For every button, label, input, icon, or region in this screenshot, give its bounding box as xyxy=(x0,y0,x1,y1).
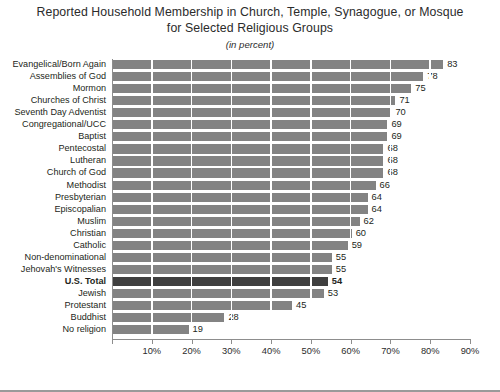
category-label: Presbyterian xyxy=(55,192,106,203)
bar-value-label: 78 xyxy=(427,71,437,82)
x-axis-tick-label: 30% xyxy=(222,346,241,356)
bar-row: Methodist66 xyxy=(0,180,500,191)
bar xyxy=(113,120,387,129)
bar-row: Jewish53 xyxy=(0,288,500,299)
bar-value-label: 45 xyxy=(296,300,306,311)
bar-value-label: 70 xyxy=(395,107,405,118)
x-axis-tick xyxy=(470,339,471,344)
x-axis-tick xyxy=(192,339,193,344)
bar-row: Non-denominational55 xyxy=(0,252,500,263)
category-label: Evangelical/Born Again xyxy=(12,59,106,70)
x-axis-tick xyxy=(351,339,352,344)
bar xyxy=(113,168,383,177)
bar-row: Protestant45 xyxy=(0,300,500,311)
category-label: Protestant xyxy=(65,300,106,311)
bar xyxy=(113,156,383,165)
bar xyxy=(113,325,189,334)
chart-subtitle: (in percent) xyxy=(0,39,500,50)
bar-row: Church of God68 xyxy=(0,167,500,178)
bar-value-label: 60 xyxy=(356,228,366,239)
bar-value-label: 69 xyxy=(391,131,401,142)
x-axis-tick-label: 90% xyxy=(461,346,480,356)
bar xyxy=(113,289,324,298)
bar-row: Pentecostal68 xyxy=(0,143,500,154)
bar xyxy=(113,313,224,322)
bar-value-label: 71 xyxy=(399,95,409,106)
category-label: Congregational/UCC xyxy=(22,119,106,130)
category-label: Christian xyxy=(70,228,106,239)
x-axis-tick xyxy=(152,339,153,344)
bar-value-label: 68 xyxy=(387,167,397,178)
bar-row: Assemblies of God78 xyxy=(0,71,500,82)
bar-row: Churches of Christ71 xyxy=(0,95,500,106)
bar xyxy=(113,193,368,202)
category-label: Episcopalian xyxy=(54,204,106,215)
x-axis-tick-label: 50% xyxy=(302,346,321,356)
category-label: Pentecostal xyxy=(58,143,106,154)
chart-title-line-2: for Selected Religious Groups xyxy=(0,21,500,37)
x-axis-tick xyxy=(231,339,232,344)
category-label: Catholic xyxy=(73,240,106,251)
category-label: Jewish xyxy=(78,288,106,299)
bar-value-label: 83 xyxy=(447,59,457,70)
bar-value-label: 62 xyxy=(364,216,374,227)
bar-row: Christian60 xyxy=(0,228,500,239)
bar xyxy=(113,241,348,250)
bar-row: Muslim62 xyxy=(0,216,500,227)
bar xyxy=(113,108,391,117)
bar-row: Lutheran68 xyxy=(0,155,500,166)
bar-value-label: 69 xyxy=(391,119,401,130)
bar-value-label: 28 xyxy=(228,312,238,323)
x-axis-tick-label: 60% xyxy=(341,346,360,356)
bar-value-label: 66 xyxy=(380,180,390,191)
category-label: U.S. Total xyxy=(65,276,106,287)
bar xyxy=(113,277,328,286)
bar-row: U.S. Total54 xyxy=(0,276,500,287)
bar-row: Baptist69 xyxy=(0,131,500,142)
category-label: Assemblies of God xyxy=(30,71,106,82)
category-label: Churches of Christ xyxy=(31,95,106,106)
bar-row: Evangelical/Born Again83 xyxy=(0,59,500,70)
category-label: Muslim xyxy=(77,216,106,227)
bar xyxy=(113,181,376,190)
bar xyxy=(113,217,360,226)
bar xyxy=(113,229,352,238)
bar-row: Mormon75 xyxy=(0,83,500,94)
category-label: Baptist xyxy=(78,131,106,142)
bar-value-label: 55 xyxy=(336,252,346,263)
bar xyxy=(113,132,387,141)
x-axis-tick xyxy=(271,339,272,344)
bar-row: Seventh Day Adventist70 xyxy=(0,107,500,118)
bar-row: Jehovah's Witnesses55 xyxy=(0,264,500,275)
bar-value-label: 59 xyxy=(352,240,362,251)
bar-row: Buddhist28 xyxy=(0,312,500,323)
bar xyxy=(113,301,292,310)
bar xyxy=(113,144,383,153)
x-axis-tick-label: 80% xyxy=(421,346,440,356)
bar-value-label: 19 xyxy=(193,324,203,335)
x-axis-tick-label: 10% xyxy=(142,346,161,356)
bar-value-label: 68 xyxy=(387,155,397,166)
x-axis-tick-label: 70% xyxy=(381,346,400,356)
category-label: Mormon xyxy=(73,83,106,94)
bar xyxy=(113,265,332,274)
bar-value-label: 54 xyxy=(332,276,342,287)
bar-value-label: 68 xyxy=(387,143,397,154)
chart-title-block: Reported Household Membership in Church,… xyxy=(0,5,500,50)
x-axis-tick xyxy=(430,339,431,344)
x-axis-tick-label: 20% xyxy=(182,346,201,356)
bar-value-label: 55 xyxy=(336,264,346,275)
bar xyxy=(113,253,332,262)
category-label: Jehovah's Witnesses xyxy=(21,264,106,275)
bar xyxy=(113,205,368,214)
bar xyxy=(113,96,395,105)
bar xyxy=(113,72,423,81)
bar-row: Episcopalian64 xyxy=(0,204,500,215)
category-label: Church of God xyxy=(47,167,106,178)
bar-value-label: 53 xyxy=(328,288,338,299)
x-axis-tick-label: 40% xyxy=(262,346,281,356)
chart-page: Reported Household Membership in Church,… xyxy=(0,0,500,392)
bar-row: Presbyterian64 xyxy=(0,192,500,203)
category-label: No religion xyxy=(63,324,106,335)
x-axis-tick xyxy=(390,339,391,344)
